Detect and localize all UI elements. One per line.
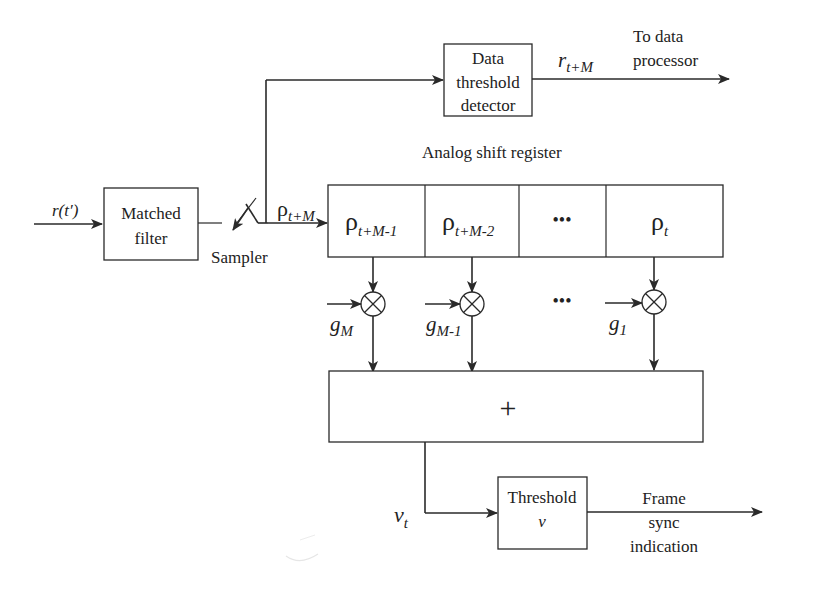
- matched-filter-block: Matched filter: [104, 188, 198, 260]
- matched-filter-label-1: Matched: [121, 204, 181, 223]
- summer-plus-icon: +: [500, 391, 517, 424]
- correlator-output-label: vt: [394, 502, 409, 531]
- summer-block: +: [329, 371, 703, 442]
- taps-ellipsis: •••: [553, 291, 572, 311]
- input-label: r(t′): [52, 201, 79, 220]
- threshold-value-label: v: [538, 512, 546, 531]
- to-data-processor-label-1: To data: [633, 27, 684, 46]
- detector-label-1: Data: [472, 49, 505, 68]
- matched-filter-label-2: filter: [134, 229, 167, 248]
- sampled-signal-label: ρt+M: [277, 196, 316, 224]
- detector-label-2: threshold: [456, 73, 520, 92]
- frame-sync-label-2: sync: [648, 513, 680, 532]
- data-threshold-detector-block: Data threshold detector: [444, 44, 532, 116]
- register-cell-ellipsis: •••: [553, 210, 572, 230]
- sampler-arrow-icon: [233, 208, 248, 230]
- multiplier-tap-2: gM-1: [425, 257, 484, 372]
- scan-artifact: [300, 535, 315, 540]
- weight-label-1: gM: [330, 312, 355, 339]
- sampler-switch: Sampler: [198, 198, 268, 267]
- frame-sync-label-1: Frame: [642, 489, 685, 508]
- to-data-processor-label-2: processor: [633, 51, 698, 70]
- frame-sync-label-3: indication: [630, 537, 698, 556]
- detector-label-3: detector: [461, 96, 516, 115]
- weight-label-2: gM-1: [426, 312, 462, 339]
- sampler-label: Sampler: [211, 248, 268, 267]
- multiplier-tap-1: gM: [327, 257, 385, 372]
- analog-shift-register: ρt+M-1 ρt+M-2 ••• ρt: [328, 185, 723, 257]
- input-signal: r(t′): [34, 201, 102, 224]
- data-output-label: rt+M: [558, 48, 594, 75]
- weight-label-last: g1: [609, 311, 627, 338]
- scan-artifact: [286, 554, 318, 561]
- multiplier-tap-last: g1: [605, 257, 666, 370]
- shift-register-label: Analog shift register: [422, 143, 562, 162]
- frame-sync-diagram: r(t′) Matched filter Sampler ρt+M Data t…: [0, 0, 827, 593]
- threshold-block: Threshold v: [498, 477, 587, 549]
- threshold-label: Threshold: [508, 488, 577, 507]
